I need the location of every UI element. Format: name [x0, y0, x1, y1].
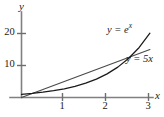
curve-label-linear-variable: x	[148, 53, 153, 64]
exponential-vs-linear-graph: y x 20 10 1 2 3 y = ex y = 5x	[0, 0, 164, 117]
x-tick-label-2: 2	[98, 101, 112, 112]
y-tick-label-10: 10	[2, 59, 17, 70]
curve-label-exponential-exponent: x	[129, 21, 132, 30]
x-tick-label-1: 1	[55, 101, 69, 112]
x-axis-label: x	[155, 90, 160, 101]
curve-label-exponential: y = ex	[107, 22, 132, 35]
curve-label-linear-base: y = 5	[126, 53, 148, 64]
x-tick-label-3: 3	[141, 101, 155, 112]
y-tick-label-20: 20	[2, 27, 17, 38]
curve-label-linear: y = 5x	[126, 54, 153, 65]
curve-label-exponential-base: y = e	[107, 24, 129, 35]
y-axis-label: y	[19, 1, 24, 12]
